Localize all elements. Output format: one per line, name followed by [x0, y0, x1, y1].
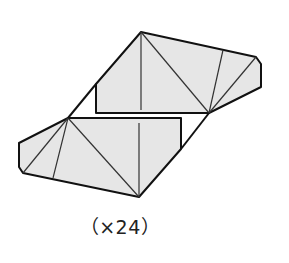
multiplier-label: （×24） — [0, 212, 240, 239]
upper-piece — [96, 32, 261, 113]
crease-line — [68, 84, 96, 118]
lower-piece — [19, 118, 181, 197]
crease-line — [181, 113, 209, 149]
